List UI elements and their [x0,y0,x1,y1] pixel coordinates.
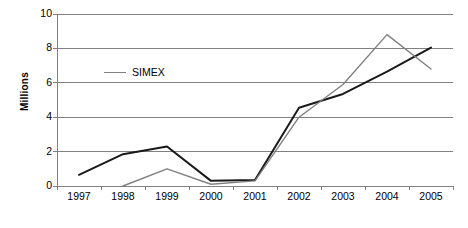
series-line-simex [123,35,431,186]
x-axis-tick-labels: 199719981999200020012002200320042005 [57,191,453,211]
legend-label-simex: SIMEX [132,67,165,78]
chart-legend: SIMEX [104,67,165,78]
x-tick-label: 2005 [401,191,461,202]
legend-line-swatch-simex [104,72,126,73]
line-chart: Millions 0246810 19971998199920002001200… [0,0,468,228]
